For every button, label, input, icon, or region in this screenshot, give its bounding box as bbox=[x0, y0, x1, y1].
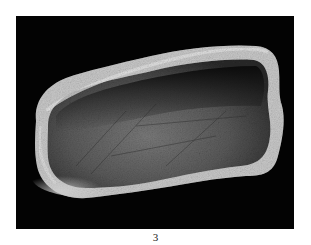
artifact-object-image bbox=[16, 16, 294, 229]
figure-caption: 3 bbox=[0, 229, 311, 245]
artifact-photo bbox=[16, 16, 294, 229]
